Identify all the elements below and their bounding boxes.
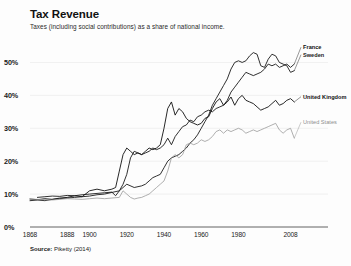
series-paths xyxy=(30,53,294,201)
legend-connector xyxy=(294,122,301,138)
y-axis-tick-label: 20% xyxy=(4,157,18,166)
x-axis-tick-label: 1900 xyxy=(82,231,96,238)
x-axis-tick-label: 1888 xyxy=(60,231,74,238)
legend-connector xyxy=(294,47,301,64)
y-axis-tick-label: 0% xyxy=(4,223,14,232)
y-axis-tick-label: 40% xyxy=(4,91,18,100)
france-label: France xyxy=(303,44,321,50)
line-chart-plot xyxy=(0,0,351,266)
source-note: Source: Piketty (2014) xyxy=(30,246,91,252)
chart-page: Tax Revenue Taxes (including social cont… xyxy=(0,0,351,266)
series-line-united-kingdom xyxy=(30,95,294,199)
y-axis-tick-label: 30% xyxy=(4,124,18,133)
x-axis-tick-label: 1940 xyxy=(157,231,171,238)
y-axis-tick-label: 50% xyxy=(4,58,18,67)
x-axis-tick-label: 1980 xyxy=(231,231,245,238)
x-axis-tick-label: 2008 xyxy=(283,231,297,238)
sweden-label: Sweden xyxy=(303,52,324,58)
legend-connector xyxy=(294,97,301,102)
united-kingdom-label: United Kingdom xyxy=(303,94,346,100)
gridlines xyxy=(30,62,328,227)
y-axis-tick-label: 10% xyxy=(4,190,18,199)
source-label: Source: xyxy=(30,246,52,252)
x-axis-tick-label: 1960 xyxy=(194,231,208,238)
united-states-label: United States xyxy=(303,119,337,125)
x-axis-tick-label: 1920 xyxy=(120,231,134,238)
x-axis-tick-label: 1868 xyxy=(23,231,37,238)
legend-connectors xyxy=(294,47,301,138)
source-value: Piketty (2014) xyxy=(54,246,91,252)
